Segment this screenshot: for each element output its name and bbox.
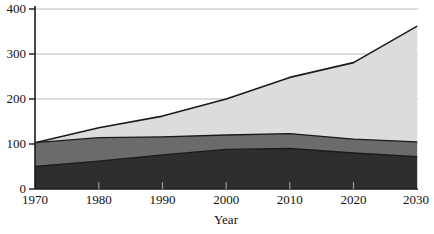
x-tick-label-1970: 1970 [12,192,58,208]
area-series-3-top [35,26,417,143]
y-axis-ticks [29,9,35,189]
y-tick-label-300: 300 [0,46,26,62]
x-tick-label-1980: 1980 [76,192,122,208]
x-tick-label-2000: 2000 [203,192,249,208]
x-axis-title: Year [166,212,286,228]
x-tick-label-2010: 2010 [267,192,313,208]
x-tick-label-2020: 2020 [331,192,377,208]
x-tick-label-2030: 2030 [393,192,434,208]
y-tick-label-200: 200 [0,91,26,107]
y-tick-label-400: 400 [0,1,26,17]
x-tick-label-1990: 1990 [140,192,186,208]
y-tick-label-100: 100 [0,136,26,152]
